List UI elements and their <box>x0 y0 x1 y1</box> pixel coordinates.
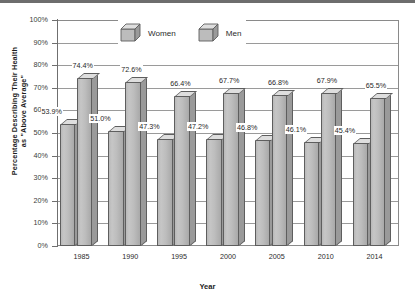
bar-front-face <box>304 142 320 246</box>
bar-value-label: 51.0% <box>89 114 111 123</box>
x-axis-tick-label: 2010 <box>301 252 350 261</box>
legend-label-men: Men <box>226 29 242 38</box>
bar-men-2000 <box>223 93 239 246</box>
bar-women-1990 <box>108 131 124 246</box>
bar-value-label: 46.8% <box>236 123 258 132</box>
y-axis-tick-label: 40% <box>0 151 48 160</box>
bar-side-face <box>385 93 391 246</box>
bar-front-face <box>272 95 288 246</box>
bar-value-label: 66.4% <box>169 79 191 88</box>
x-axis-tick-label: 1990 <box>106 252 155 261</box>
bar-women-2010 <box>304 142 320 246</box>
bar-value-label: 47.2% <box>187 122 209 131</box>
x-axis-tick-labels: 1985199019952000200520102014 <box>57 252 399 266</box>
x-axis-title: Year <box>0 282 415 291</box>
x-axis-tick-label: 2014 <box>350 252 399 261</box>
bar-front-face <box>223 93 239 246</box>
bar-front-face <box>60 124 76 246</box>
bar-front-face <box>353 143 369 246</box>
bar-women-2014 <box>353 143 369 246</box>
y-axis-tick-label: 0% <box>0 241 48 250</box>
bar-value-label: 47.3% <box>138 122 160 131</box>
bar-side-face <box>141 77 147 246</box>
bar-value-label: 67.7% <box>218 76 240 85</box>
bar-side-face <box>92 73 98 246</box>
bar-value-label: 45.4% <box>334 126 356 135</box>
y-axis-tick-label: 10% <box>0 218 48 227</box>
bar-women-1985 <box>60 124 76 246</box>
bar-value-label: 65.5% <box>365 81 387 90</box>
bar-men-2005 <box>272 95 288 246</box>
y-axis-tick-label: 70% <box>0 83 48 92</box>
x-axis-tick-label: 2005 <box>252 252 301 261</box>
bar-side-face <box>336 88 342 246</box>
y-axis-tick-label: 30% <box>0 173 48 182</box>
bar-side-face <box>239 88 245 246</box>
bar-front-face <box>206 139 222 246</box>
bar-value-label: 53.9% <box>41 107 63 116</box>
legend-cube-icon-women <box>120 23 142 43</box>
bar-value-label: 46.1% <box>285 125 307 134</box>
bar-women-2000 <box>206 139 222 246</box>
bar-women-1995 <box>157 139 173 246</box>
bar-value-label: 67.9% <box>316 76 338 85</box>
bar-front-face <box>125 82 141 246</box>
y-axis-tick-label: 50% <box>0 128 48 137</box>
bar-front-face <box>157 139 173 246</box>
y-axis-tick-label: 100% <box>0 15 48 24</box>
bar-group: 53.9%74.4%51.0%72.6%47.3%66.4%47.2%67.7%… <box>57 20 399 246</box>
bar-men-1985 <box>77 78 93 246</box>
legend-item-men: Men <box>198 23 242 43</box>
chart-root: Percentage Describing Their Health as "A… <box>0 0 415 300</box>
bar-front-face <box>77 78 93 246</box>
top-divider-rule <box>0 0 415 3</box>
bar-side-face <box>190 91 196 246</box>
bar-men-2010 <box>321 93 337 246</box>
legend-item-women: Women <box>120 23 176 43</box>
bar-front-face <box>321 93 337 246</box>
bar-front-face <box>108 131 124 246</box>
bar-front-face <box>174 96 190 246</box>
bar-men-1995 <box>174 96 190 246</box>
bar-women-2005 <box>255 140 271 246</box>
y-axis-tick-label: 90% <box>0 38 48 47</box>
x-axis-tick-label: 1985 <box>57 252 106 261</box>
bar-front-face <box>255 140 271 246</box>
legend-cube-icon-men <box>198 23 220 43</box>
y-axis-tick-label: 20% <box>0 196 48 205</box>
y-axis-tick-label: 80% <box>0 60 48 69</box>
chart-legend: Women Men <box>120 23 242 43</box>
bar-men-2014 <box>370 98 386 246</box>
legend-label-women: Women <box>148 29 176 38</box>
bar-side-face <box>287 90 293 246</box>
bar-men-1990 <box>125 82 141 246</box>
x-axis-tick-label: 1995 <box>155 252 204 261</box>
x-axis-tick-label: 2000 <box>204 252 253 261</box>
bar-value-label: 72.6% <box>120 65 142 74</box>
bar-value-label: 66.8% <box>267 78 289 87</box>
bar-front-face <box>370 98 386 246</box>
bar-value-label: 74.4% <box>72 61 94 70</box>
